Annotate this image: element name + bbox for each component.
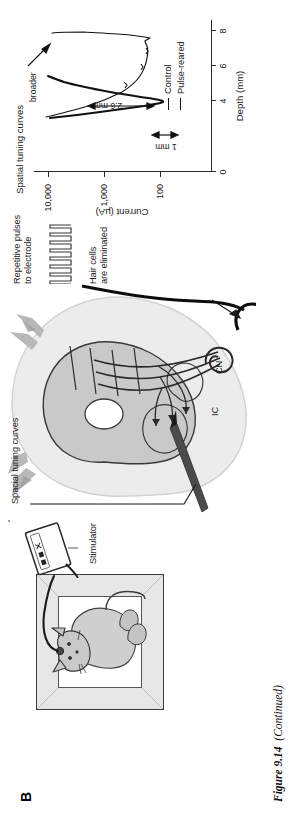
- annotation-2-6mm: 2.6 mm: [94, 101, 123, 111]
- broader-callout-arrow: [28, 44, 50, 66]
- repetitive-pulses-label: Repetitive pulses to electrode: [12, 215, 33, 284]
- head-brain-schematic: [6, 282, 256, 514]
- measure-1mm: [152, 132, 178, 138]
- x-axis-label: Depth (mm): [234, 71, 245, 122]
- y-tick-label-10000: 10,000: [43, 184, 53, 212]
- chart-plot-area: 10,000 1,000 100 0 4 6 8: [34, 20, 212, 172]
- pulse-train-waveform: [44, 224, 72, 284]
- legend-label-pulse-reared: Pulse-reared: [175, 41, 188, 94]
- y-axis-label: Current (µA): [96, 207, 149, 218]
- figure-caption-note: (Continued): [272, 685, 284, 741]
- spacial-tuning-curves-label: Spacial tuning curves: [10, 418, 21, 504]
- x-tick-label-8: 8: [218, 28, 228, 33]
- panel-letter-b: B: [18, 792, 34, 802]
- figure-stage: B Figure 9.14 (Continued): [0, 0, 304, 814]
- chart-legend: Control Pulse-reared: [162, 41, 187, 110]
- hair-cells-label: Hair cells are eliminated: [88, 227, 109, 284]
- annotation-broader: broader: [28, 72, 38, 102]
- annotation-1mm: 1 mm: [155, 142, 176, 152]
- y-tick-1000: 1,000: [104, 172, 105, 177]
- y-tick-label-100: 100: [155, 184, 165, 199]
- y-tick-100: 100: [160, 172, 161, 177]
- x-tick-label-4: 4: [218, 98, 228, 103]
- y-tick-10000: 10,000: [48, 172, 49, 177]
- x-tick-label-6: 6: [218, 63, 228, 68]
- scan-speck: [8, 520, 10, 522]
- figure-caption: Figure 9.14 (Continued): [272, 685, 284, 802]
- stimulator-device: [22, 512, 84, 578]
- stimulator-label: Stimulator: [88, 523, 99, 564]
- legend-entry-control: Control: [162, 41, 175, 110]
- figure-caption-note-spacer: [272, 741, 284, 747]
- ic-label: IC: [210, 407, 221, 416]
- cat-box-perspective-lines: [36, 574, 164, 710]
- cn-label: CN: [214, 361, 225, 374]
- spatial-tuning-chart: Spatial tuning curves 10,000 1,000 100 0…: [14, 8, 268, 218]
- legend-swatch-control: [168, 98, 169, 110]
- x-tick-label-0: 0: [218, 169, 228, 174]
- legend-entry-pulse-reared: Pulse-reared: [175, 41, 188, 110]
- figure-caption-number: Figure 9.14: [272, 746, 284, 802]
- legend-swatch-pulse-reared: [180, 98, 181, 110]
- chart-title: Spatial tuning curves: [14, 105, 25, 194]
- y-tick-label-1000: 1,000: [99, 184, 109, 207]
- cat-in-box-illustration: [36, 574, 164, 710]
- legend-label-control: Control: [162, 64, 175, 94]
